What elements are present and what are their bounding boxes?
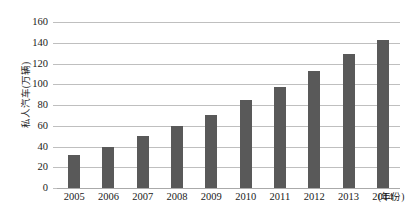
bar bbox=[274, 87, 286, 188]
bar bbox=[68, 155, 80, 188]
gridline bbox=[57, 188, 400, 189]
x-tick-label: 2005 bbox=[57, 192, 91, 203]
bar-slot bbox=[297, 22, 331, 188]
bar-slot bbox=[228, 22, 262, 188]
x-axis-title: (年份) bbox=[378, 193, 404, 203]
bar-slot bbox=[91, 22, 125, 188]
x-axis-labels: 2005200620072008200920102011201220132014 bbox=[57, 192, 400, 203]
bar bbox=[240, 100, 252, 188]
x-tick-label: 2007 bbox=[126, 192, 160, 203]
x-tick-label: 2008 bbox=[160, 192, 194, 203]
x-tick-label: 2006 bbox=[91, 192, 125, 203]
bar bbox=[171, 126, 183, 188]
bar bbox=[137, 136, 149, 188]
bar-slot bbox=[194, 22, 228, 188]
bar-slot bbox=[160, 22, 194, 188]
bar-slot bbox=[126, 22, 160, 188]
bar-slot bbox=[57, 22, 91, 188]
bar bbox=[343, 54, 355, 188]
bar bbox=[308, 71, 320, 188]
x-tick-label: 2009 bbox=[194, 192, 228, 203]
bar-chart: 私人汽车(万辆) 020406080100120140160 200520062… bbox=[0, 0, 420, 221]
bar-series bbox=[57, 22, 400, 188]
y-axis-title: 私人汽车(万辆) bbox=[18, 0, 32, 190]
x-tick-label: 2010 bbox=[228, 192, 262, 203]
bar bbox=[205, 115, 217, 188]
bar-slot bbox=[263, 22, 297, 188]
bar bbox=[377, 40, 389, 188]
bar-slot bbox=[331, 22, 365, 188]
bar-slot bbox=[366, 22, 400, 188]
x-tick-label: 2012 bbox=[297, 192, 331, 203]
bar bbox=[102, 147, 114, 189]
plot-area bbox=[57, 22, 400, 188]
x-tick-label: 2011 bbox=[263, 192, 297, 203]
x-tick-label: 2013 bbox=[331, 192, 365, 203]
